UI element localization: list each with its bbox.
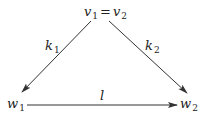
l-base: l [100, 88, 104, 103]
node-w1-label: w1 [7, 97, 25, 113]
w1-base: w [7, 96, 18, 111]
edge-k1-label: k1 [45, 39, 60, 55]
k2-sub: 2 [154, 45, 160, 55]
k1-base: k [45, 38, 53, 53]
edge-l-label: l [100, 89, 104, 102]
equals-sign: = [100, 4, 111, 19]
v1-base: v [84, 4, 91, 19]
arrow-k1 [22, 21, 91, 92]
v2-base: v [113, 4, 120, 19]
node-w2-label: w2 [180, 97, 198, 113]
arrow-k2 [109, 21, 187, 93]
v2-sub: 2 [121, 11, 127, 21]
k1-sub: 1 [54, 45, 60, 55]
w1-sub: 1 [19, 103, 25, 113]
w2-sub: 2 [192, 103, 198, 113]
edge-k2-label: k2 [145, 39, 160, 55]
v1-sub: 1 [92, 11, 98, 21]
node-top-label: v1=v2 [84, 5, 127, 21]
k2-base: k [145, 38, 153, 53]
w2-base: w [180, 96, 191, 111]
